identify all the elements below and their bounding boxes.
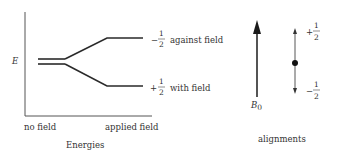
x-tick-no-field: no field xyxy=(24,122,57,132)
against-field-level xyxy=(65,38,143,59)
svg-text:2: 2 xyxy=(159,88,164,97)
svg-text:1: 1 xyxy=(159,77,164,86)
energies-caption: Energies xyxy=(66,140,104,150)
svg-text:1: 1 xyxy=(314,80,319,89)
svg-text:+: + xyxy=(306,27,313,37)
b0-field-arrow-icon xyxy=(253,20,261,97)
svg-text:with field: with field xyxy=(170,83,211,93)
x-tick-applied-field: applied field xyxy=(105,122,159,132)
with-field-label: + 1 2 with field xyxy=(150,77,211,97)
svg-text:2: 2 xyxy=(314,92,319,101)
svg-text:2: 2 xyxy=(314,33,319,42)
svg-text:−: − xyxy=(151,35,158,45)
svg-text:2: 2 xyxy=(159,40,164,49)
svg-text:−: − xyxy=(306,86,313,96)
svg-text:1: 1 xyxy=(314,21,319,30)
nucleus-dot-icon xyxy=(292,60,298,66)
energy-level-diagram: E − 1 2 against field + 1 2 with field n… xyxy=(0,0,337,159)
svg-text:1: 1 xyxy=(159,29,164,38)
upper-state-label: + 1 2 xyxy=(306,21,320,42)
svg-text:against field: against field xyxy=(170,35,224,45)
against-field-label: − 1 2 against field xyxy=(151,29,224,49)
alignments-caption: alignments xyxy=(258,134,306,144)
lower-state-label: − 1 2 xyxy=(306,80,320,101)
b0-label: B0 xyxy=(250,100,262,112)
with-field-level xyxy=(65,64,143,86)
svg-text:+: + xyxy=(150,83,157,93)
y-axis-label: E xyxy=(11,56,19,66)
spin-double-arrow-icon xyxy=(292,28,298,94)
